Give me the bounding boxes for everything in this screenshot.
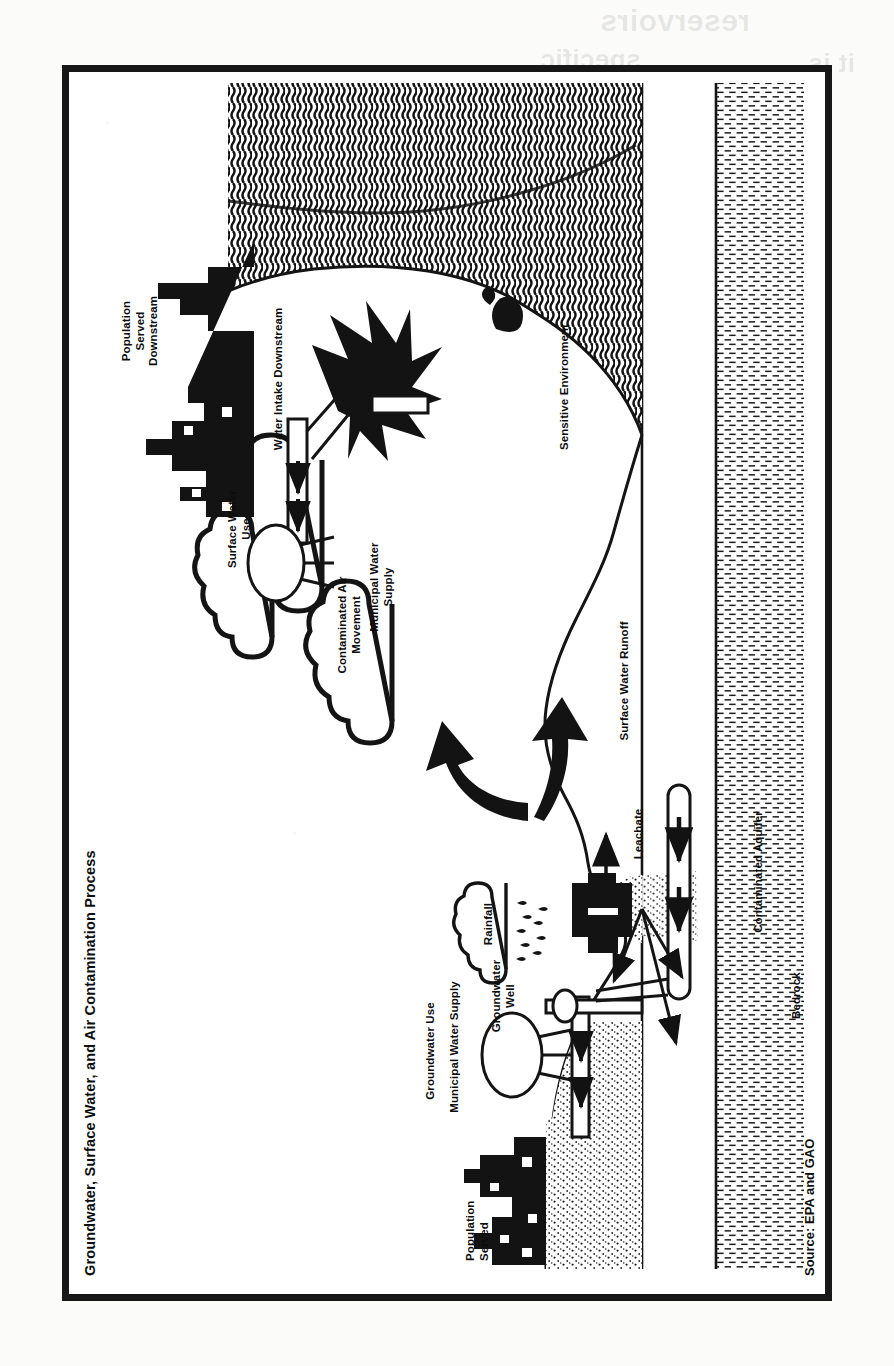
label-municipal-water-supply-surface: Municipal Water Supply <box>368 527 395 647</box>
label-contaminated-aquifer: Contaminated Aquifer <box>752 787 766 957</box>
water-intake-structure <box>288 301 442 543</box>
divergent-arrows <box>426 697 588 821</box>
diagram-scene: Population Served Groundwater Use Munici… <box>76 79 818 1287</box>
label-municipal-water-supply-groundwater: Municipal Water Supply <box>448 957 462 1137</box>
bleed-through-text-1: reservoirs <box>600 4 750 38</box>
label-sensitive-environment: Sensitive Environment <box>558 297 572 477</box>
figure-border-frame: Groundwater, Surface Water, and Air Cont… <box>62 65 832 1301</box>
label-bedrock: Bedrock <box>790 939 804 1019</box>
label-water-intake-downstream: Water Intake Downstream <box>272 291 286 467</box>
label-population-served-downstream: Population Served Downstream <box>120 275 161 387</box>
label-surface-water-runoff: Surface Water Runoff <box>618 599 632 763</box>
label-groundwater-well: Groundwater Well <box>490 951 517 1041</box>
label-leachate: Leachate <box>632 793 646 875</box>
diagram-artwork <box>76 79 818 1287</box>
label-rainfall: Rainfall <box>482 887 496 961</box>
label-groundwater-use: Groundwater Use <box>424 981 438 1121</box>
label-contaminated-air-movement: Contaminated Air Movement <box>336 563 363 687</box>
figure-rotated-container: Groundwater, Surface Water, and Air Cont… <box>62 65 832 1301</box>
lake-water-hatch <box>228 83 642 435</box>
label-population-served: Population Served <box>464 1171 491 1261</box>
label-surface-water-use: Surface Water Use <box>226 477 253 581</box>
